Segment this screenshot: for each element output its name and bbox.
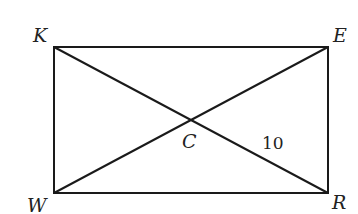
- vertex-label-W: W: [27, 194, 48, 214]
- rectangle-diagram: K E W R C 10: [0, 0, 358, 214]
- vertex-label-K: K: [32, 24, 49, 46]
- intersection-label-C: C: [182, 130, 197, 152]
- vertex-label-E: E: [332, 24, 347, 46]
- segment-CR-length: 10: [262, 133, 284, 153]
- vertex-label-R: R: [331, 191, 346, 213]
